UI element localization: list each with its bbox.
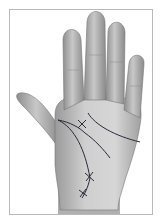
ring-finger bbox=[106, 22, 125, 104]
middle-finger bbox=[84, 12, 106, 101]
palm-illustration bbox=[0, 0, 161, 224]
palm bbox=[55, 98, 141, 210]
little-finger bbox=[124, 55, 144, 118]
thumb bbox=[17, 93, 60, 150]
